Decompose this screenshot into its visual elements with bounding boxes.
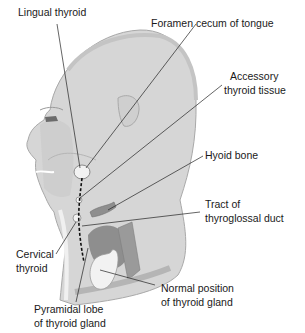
label-tract-line1: Tract of bbox=[205, 198, 240, 211]
thyroid-descent-diagram: Lingual thyroid Foramen cecum of tongue … bbox=[0, 0, 305, 333]
label-hyoid-bone: Hyoid bone bbox=[205, 149, 258, 162]
label-foramen-cecum: Foramen cecum of tongue bbox=[151, 17, 274, 30]
label-accessory-line2: thyroid tissue bbox=[224, 84, 286, 97]
label-lingual-thyroid: Lingual thyroid bbox=[18, 6, 86, 19]
lingual-thyroid-nodule bbox=[74, 165, 90, 179]
eye bbox=[45, 116, 58, 122]
label-tract-line2: thyroglossal duct bbox=[205, 212, 284, 225]
label-normal-line2: of thyroid gland bbox=[161, 296, 233, 309]
label-accessory-line1: Accessory bbox=[230, 70, 278, 83]
label-pyramidal-line1: Pyramidal lobe bbox=[34, 303, 103, 316]
label-pyramidal-line2: of thyroid gland bbox=[34, 317, 106, 330]
head-neck-illustration bbox=[0, 0, 305, 333]
cervical-thyroid-nodule bbox=[73, 214, 81, 222]
label-cervical-line2: thyroid bbox=[16, 262, 48, 275]
mouth bbox=[36, 171, 54, 172]
label-normal-line1: Normal position bbox=[161, 282, 234, 295]
label-cervical-line1: Cervical bbox=[16, 248, 54, 261]
